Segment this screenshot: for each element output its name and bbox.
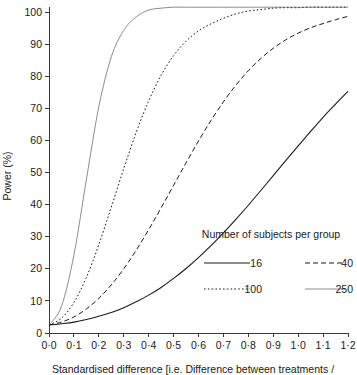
x-tick-label: 1·1 xyxy=(315,339,330,351)
x-axis-ticks: 0·00·10·20·30·40·50·60·70·80·91·01·11·2 xyxy=(41,333,355,351)
legend-label-40: 40 xyxy=(341,257,353,269)
x-tick-label: 0·5 xyxy=(166,339,181,351)
y-tick-label: 50 xyxy=(30,166,42,178)
legend-title: Number of subjects per group xyxy=(202,228,340,240)
x-tick-label: 1·2 xyxy=(340,339,355,351)
y-tick-label: 90 xyxy=(30,38,42,50)
y-tick-label: 80 xyxy=(30,70,42,82)
legend: Number of subjects per group 1640100250 xyxy=(202,228,353,295)
legend-entries: 1640100250 xyxy=(204,257,353,295)
x-tick-label: 0·3 xyxy=(116,339,131,351)
chart-canvas: 0102030405060708090100 0·00·10·20·30·40·… xyxy=(0,0,357,375)
x-tick-label: 0·6 xyxy=(191,339,206,351)
curve-n-40 xyxy=(49,16,348,325)
y-tick-label: 40 xyxy=(30,198,42,210)
x-tick-label: 0·9 xyxy=(266,339,281,351)
x-tick-label: 0·2 xyxy=(91,339,106,351)
curve-n-250 xyxy=(49,7,348,325)
x-tick-label: 0·4 xyxy=(141,339,156,351)
y-tick-label: 10 xyxy=(30,295,42,307)
y-axis-title: Power (%) xyxy=(1,151,13,200)
y-tick-label: 100 xyxy=(24,6,42,18)
x-axis-title: Standardised difference [i.e. Difference… xyxy=(52,363,334,375)
curve-n-100 xyxy=(49,7,348,325)
power-curve-figure: 0102030405060708090100 0·00·10·20·30·40·… xyxy=(0,0,357,375)
legend-label-100: 100 xyxy=(244,283,262,295)
y-axis-group: 0102030405060708090100 xyxy=(24,6,49,339)
x-axis-group: 0·00·10·20·30·40·50·60·70·80·91·01·11·2 xyxy=(41,333,355,351)
y-tick-label: 0 xyxy=(36,327,42,339)
x-tick-label: 0·8 xyxy=(241,339,256,351)
y-tick-label: 30 xyxy=(30,230,42,242)
legend-label-16: 16 xyxy=(250,257,262,269)
x-tick-label: 0·7 xyxy=(216,339,231,351)
x-tick-label: 0·0 xyxy=(41,339,56,351)
curve-n-16 xyxy=(49,91,348,325)
x-tick-label: 1·0 xyxy=(291,339,306,351)
y-tick-label: 70 xyxy=(30,102,42,114)
y-tick-label: 20 xyxy=(30,262,42,274)
y-axis-ticks: 0102030405060708090100 xyxy=(24,6,49,339)
x-tick-label: 0·1 xyxy=(66,339,81,351)
legend-label-250: 250 xyxy=(335,283,353,295)
y-tick-label: 60 xyxy=(30,134,42,146)
data-curves xyxy=(49,7,348,325)
